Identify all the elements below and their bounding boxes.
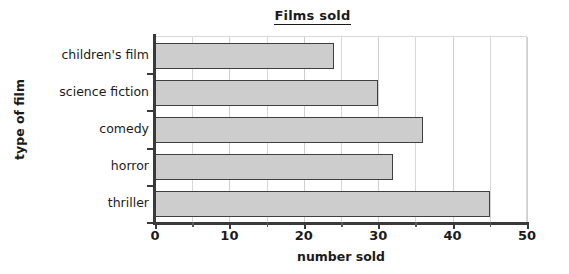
gridline-45 (490, 37, 491, 222)
x-tick-label-10: 10 (209, 228, 249, 243)
x-tick-25 (341, 222, 343, 227)
x-tick-45 (490, 222, 492, 227)
x-tick-label-20: 20 (284, 228, 324, 243)
x-axis-title: number sold (155, 249, 527, 264)
y-tick-2 (147, 148, 154, 150)
y-axis-title: type of film (12, 55, 27, 185)
chart-title-text: Films sold (274, 8, 350, 25)
x-tick-label-50: 50 (507, 228, 547, 243)
y-tick-0 (147, 73, 154, 75)
y-tick-label-2: comedy (9, 121, 149, 136)
chart-page: Films sold children's filmscience fictio… (0, 0, 569, 274)
y-axis-tick-labels: children's filmscience fictioncomedyhorr… (5, 36, 149, 222)
x-tick-label-0: 0 (135, 228, 175, 243)
x-tick-15 (267, 222, 269, 227)
y-tick-label-3: horror (9, 158, 149, 173)
y-tick-1 (147, 110, 154, 112)
y-tick-label-0: children's film (9, 47, 149, 62)
x-tick-label-40: 40 (433, 228, 473, 243)
gridline-50 (527, 37, 528, 222)
plot-area (155, 36, 527, 222)
bar-horror (155, 154, 393, 180)
y-tick-label-4: thriller (9, 195, 149, 210)
bar-science-fiction (155, 80, 378, 106)
chart-title: Films sold (0, 8, 569, 23)
bar-children-s-film (155, 43, 334, 69)
x-tick-35 (415, 222, 417, 227)
y-tick-3 (147, 185, 154, 187)
x-tick-label-30: 30 (358, 228, 398, 243)
y-tick-4 (147, 222, 154, 224)
bar-thriller (155, 191, 490, 217)
x-tick-5 (192, 222, 194, 227)
bar-comedy (155, 117, 423, 143)
y-axis-line (153, 34, 156, 224)
y-tick-label-1: science fiction (9, 84, 149, 99)
